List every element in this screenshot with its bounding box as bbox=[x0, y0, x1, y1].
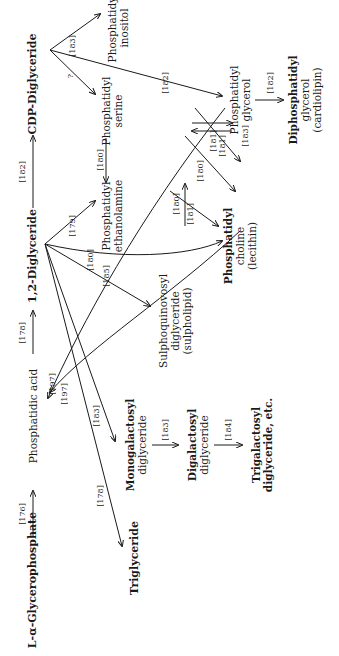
ref-label: [181] bbox=[209, 130, 218, 152]
label-line: Phosphatidyl bbox=[222, 208, 234, 285]
label-line: (lecithin) bbox=[246, 208, 258, 285]
node-phosphatidyl-choline: Phosphatidyl choline (lecithin) bbox=[222, 208, 258, 285]
label-line: Sulphoquinovosyl bbox=[157, 274, 169, 368]
node-cdp-diglyceride: CDP-Diglyceride bbox=[27, 34, 40, 135]
node-phosphatidyl-inositol: Phosphatidyl inositol bbox=[106, 0, 130, 62]
label-line: glycerol bbox=[299, 55, 311, 144]
ref-label: [178] bbox=[18, 322, 27, 344]
ref-label: [178] bbox=[96, 485, 105, 507]
arrow-dg-to-tg bbox=[45, 244, 122, 546]
ref-label: [184] bbox=[224, 419, 233, 441]
ref-label: [181] bbox=[218, 135, 227, 157]
pathway-diagram: L-α-Glycerophosphate Phosphatidic acid 1… bbox=[0, 0, 339, 656]
node-trigalactosyl-diglyceride: Trigalactosyl diglyceride, etc. bbox=[250, 398, 274, 492]
ref-label: [176] bbox=[18, 503, 27, 525]
label-line: inositol bbox=[118, 0, 130, 62]
label-line: Diphosphatidyl bbox=[287, 55, 299, 144]
label-line: (sulpholipid) bbox=[181, 274, 193, 368]
label-line: Phosphatidyl bbox=[100, 180, 112, 252]
ref-label: [182] bbox=[266, 72, 275, 94]
ref-label: [180] bbox=[86, 249, 95, 271]
node-phosphatidyl-ethanolamine: Phosphatidyl ethanolamine bbox=[100, 180, 124, 252]
ref-label: ? bbox=[66, 74, 75, 78]
node-digalactosyl-diglyceride: Digalactosyl diglyceride bbox=[186, 409, 210, 481]
ref-label: [183] bbox=[241, 125, 250, 147]
label-line: diglyceride bbox=[136, 399, 148, 491]
label-line: serine bbox=[112, 77, 124, 146]
node-phosphatidyl-glycerol: Phosphatidyl glycerol bbox=[228, 66, 252, 135]
ref-label: [181] bbox=[186, 203, 195, 225]
ref-label: [197] bbox=[60, 383, 69, 405]
label-line: Digalactosyl bbox=[186, 409, 198, 481]
ref-label: [182] bbox=[18, 161, 27, 183]
ref-label: [180] bbox=[172, 193, 181, 215]
node-sulphoquinovosyl-diglyceride: Sulphoquinovosyl diglyceride (sulpholipi… bbox=[157, 274, 193, 368]
arrow-dg-to-pc bbox=[45, 241, 222, 255]
node-diphosphatidyl-glycerol: Diphosphatidyl glycerol (cardiolipin) bbox=[287, 55, 323, 144]
ref-label: [180] bbox=[96, 149, 105, 171]
label-line: diglyceride bbox=[198, 409, 210, 481]
arrow-dg-to-sq bbox=[45, 244, 150, 306]
node-diglyceride: 1,2-Diglyceride bbox=[27, 209, 40, 303]
ref-label: [197] bbox=[48, 373, 57, 395]
label-line: ethanolamine bbox=[112, 180, 124, 252]
node-monogalactosyl-diglyceride: Monogalactosyl diglyceride bbox=[124, 399, 148, 491]
label-line: Monogalactosyl bbox=[124, 399, 136, 491]
ref-label: [182] bbox=[161, 72, 170, 94]
label-line: diglyceride, etc. bbox=[262, 398, 274, 492]
ref-label: [179] bbox=[68, 215, 77, 237]
label-line: Trigalactosyl bbox=[250, 398, 262, 492]
ref-label: [183] bbox=[68, 35, 77, 57]
label-line: choline bbox=[234, 208, 246, 285]
ref-label: [180] bbox=[196, 160, 205, 182]
label-line: Phosphatidyl bbox=[100, 77, 112, 146]
node-phosphatidic-acid: Phosphatidic acid bbox=[27, 369, 39, 463]
label-line: glycerol bbox=[240, 66, 252, 135]
node-glycerophosphate: L-α-Glycerophosphate bbox=[27, 512, 40, 648]
arrow-cdp-to-pg bbox=[50, 50, 222, 96]
label-line: Phosphatidyl bbox=[228, 66, 240, 135]
ref-label: [183] bbox=[161, 419, 170, 441]
label-line: (cardiolipin) bbox=[311, 55, 323, 144]
node-triglyceride: Triglyceride bbox=[129, 521, 142, 595]
node-phosphatidyl-serine: Phosphatidyl serine bbox=[100, 77, 124, 146]
label-line: Phosphatidyl bbox=[106, 0, 118, 62]
arrow-pc-to-pa bbox=[50, 231, 240, 392]
label-line: diglyceride bbox=[169, 274, 181, 368]
ref-label: [185] bbox=[102, 265, 111, 287]
ref-label: [183] bbox=[92, 405, 101, 427]
